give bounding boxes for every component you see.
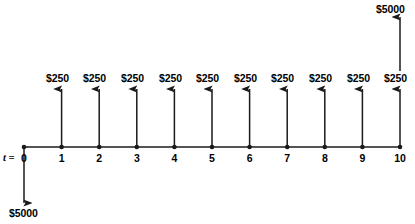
inflow-amount-label-10: $250 bbox=[384, 72, 407, 84]
inflow-amount-label-2: $250 bbox=[83, 72, 106, 84]
inflow-amount-label-4: $250 bbox=[159, 72, 182, 84]
cash-flow-svg bbox=[0, 0, 415, 224]
tick-label-3: 3 bbox=[125, 152, 149, 164]
inflow-amount-label-7: $250 bbox=[271, 72, 294, 84]
inflow-amount-label-1: $250 bbox=[46, 72, 69, 84]
cash-flow-diagram: $5000 $250 $250 $250 $250 $250 $250 $250… bbox=[0, 0, 415, 224]
tick-label-0: 0 bbox=[12, 152, 36, 164]
tick-label-9: 9 bbox=[350, 152, 374, 164]
salvage-amount-label: $5000 bbox=[376, 3, 405, 15]
inflow-amount-label-9: $250 bbox=[347, 72, 370, 84]
tick-label-10: 10 bbox=[388, 152, 412, 164]
inflow-amount-label-6: $250 bbox=[234, 72, 257, 84]
tick-label-2: 2 bbox=[87, 152, 111, 164]
tick-label-4: 4 bbox=[162, 152, 186, 164]
initial-cost-amount-label: $5000 bbox=[9, 207, 38, 219]
tick-label-6: 6 bbox=[238, 152, 262, 164]
inflow-amount-label-8: $250 bbox=[309, 72, 332, 84]
inflow-amount-label-5: $250 bbox=[196, 72, 219, 84]
inflow-amount-label-3: $250 bbox=[121, 72, 144, 84]
tick-label-1: 1 bbox=[50, 152, 74, 164]
tick-label-8: 8 bbox=[313, 152, 337, 164]
tick-label-5: 5 bbox=[200, 152, 224, 164]
tick-label-7: 7 bbox=[275, 152, 299, 164]
inflow-arrows bbox=[62, 89, 400, 147]
